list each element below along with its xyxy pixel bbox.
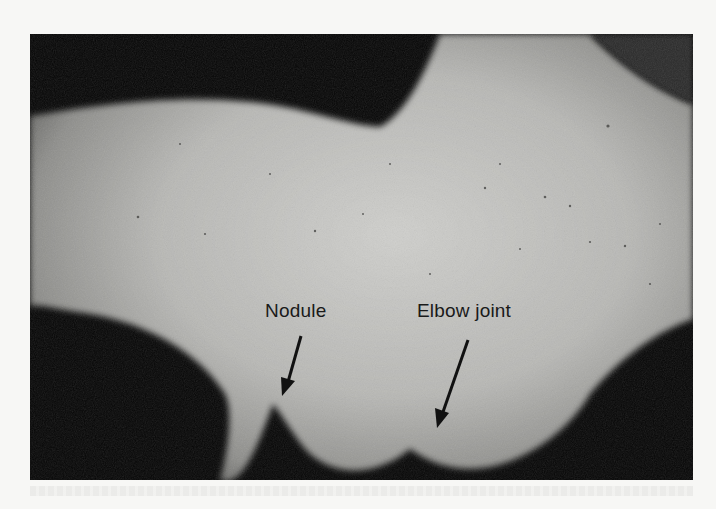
clinical-photo: Nodule Elbow joint [30,34,693,480]
caption-bleed [30,486,693,496]
elbow-joint-label: Elbow joint [417,300,511,322]
skin-region [30,34,693,480]
nodule-label: Nodule [265,300,326,322]
